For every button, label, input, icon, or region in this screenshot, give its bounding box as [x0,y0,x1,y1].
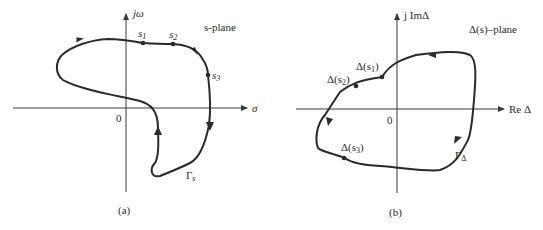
im-delta-axis-label: j ImΔ [404,10,429,21]
gamma-delta-sub: Δ [461,154,466,163]
caption-b: (b) [389,206,402,218]
direction-arrow-icon [326,117,333,126]
point-s3 [206,73,211,78]
origin-label-a: 0 [116,113,122,124]
panel-a-s-plane [13,14,247,192]
re-delta-axis-label: Re Δ [509,104,531,115]
s2-label: s2 [169,29,177,42]
direction-arrow-icon [76,37,84,43]
delta-s1-close: ) [375,60,379,72]
delta-s3-close: ) [360,141,364,153]
s1-label: s1 [138,28,146,41]
point-s2 [171,42,176,47]
s3-label-sub: 3 [216,74,220,83]
origin-label-b: 0 [387,115,393,126]
s3-label: s3 [212,70,220,83]
delta-s1-name: Δ(s [356,60,371,72]
point-s1 [141,41,146,46]
gamma-delta-label: ΓΔ [455,150,467,163]
direction-arrow-icon [454,136,462,144]
s1-label-sub: 1 [142,32,146,41]
point-delta-s1 [380,75,385,80]
panel-b-delta-plane [296,14,504,193]
delta-s2-label: Δ(s2) [327,74,350,87]
gamma-s-label: Γs [186,170,195,183]
gamma-s-sub: s [192,174,195,183]
delta-plane-label: Δ(s)–plane [469,24,517,35]
direction-arrow-icon [154,126,162,135]
diagram-canvas [0,0,543,230]
sigma-axis-label: σ [252,103,257,114]
delta-s3-name: Δ(s [341,141,356,153]
point-delta-s3 [342,156,347,161]
caption-a: (a) [118,204,130,216]
delta-s1-label: Δ(s1) [356,61,379,74]
s-plane-label: s-plane [204,22,236,33]
delta-s2-name: Δ(s [327,73,342,85]
delta-s3-label: Δ(s3) [341,142,364,155]
jw-axis-label: jω [133,8,144,19]
delta-s2-close: ) [346,73,350,85]
point-delta-s2 [354,84,359,89]
s2-label-sub: 2 [173,33,177,42]
